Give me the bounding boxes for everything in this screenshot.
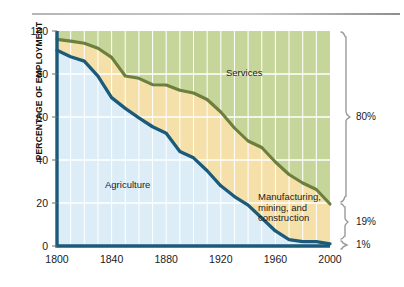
x-tick-1840: 1840 (92, 253, 132, 265)
x-tick-2000: 2000 (310, 253, 350, 265)
y-tick-40: 40 (22, 154, 48, 166)
services-area-label: Services (226, 68, 262, 79)
manufacturing-label-line-2: mining, and (258, 202, 307, 213)
agriculture-area-label: Agriculture (105, 180, 150, 191)
manufacturing-label-line-3: construction (258, 212, 309, 223)
x-tick-1920: 1920 (201, 253, 241, 265)
manufacturing-area-label: Manufacturing, mining, and construction (258, 192, 328, 224)
y-tick-20: 20 (22, 197, 48, 209)
bracket-label-services: 80% (356, 111, 376, 122)
right-brackets (341, 32, 350, 249)
y-tick-60: 60 (22, 111, 48, 123)
y-tick-100: 100 (22, 25, 48, 37)
x-tick-1960: 1960 (255, 253, 295, 265)
plot-wrapper: PERCENTAGE OF EMPLOYMENT 100 80 60 40 20… (0, 0, 404, 287)
x-tick-1800: 1800 (37, 253, 77, 265)
employment-area-chart (0, 0, 404, 287)
bracket-label-agriculture: 1% (356, 239, 370, 250)
y-tick-80: 80 (22, 68, 48, 80)
bracket-label-manufacturing: 19% (356, 216, 376, 227)
x-tick-1880: 1880 (146, 253, 186, 265)
chart-figure: PERCENTAGE OF EMPLOYMENT 100 80 60 40 20… (0, 0, 404, 287)
manufacturing-label-line-1: Manufacturing, (258, 191, 321, 202)
y-tick-0: 0 (22, 240, 48, 252)
